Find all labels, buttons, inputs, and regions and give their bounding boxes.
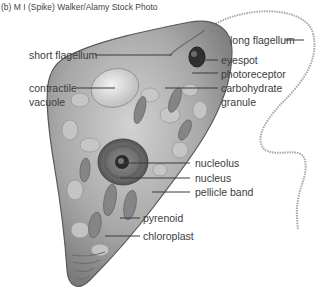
label-chloroplast: chloroplast <box>143 230 194 242</box>
label-photoreceptor: photoreceptor <box>221 68 286 80</box>
label-long-flagellum: long flagellum <box>230 34 295 46</box>
euglena-illustration <box>0 0 319 308</box>
label-eyespot: eyespot <box>221 54 258 66</box>
label-contractile-vacuole-line2: vacuole <box>29 96 65 108</box>
label-carbohydrate-granule-line2: granule <box>221 96 256 108</box>
label-nucleolus: nucleolus <box>195 157 239 169</box>
label-pellicle-band: pellicle band <box>195 186 253 198</box>
label-nucleus: nucleus <box>195 172 231 184</box>
label-contractile-vacuole-line1: contractile <box>29 82 77 94</box>
label-pyrenoid: pyrenoid <box>143 212 183 224</box>
label-short-flagellum: short flagellum <box>29 49 97 61</box>
label-carbohydrate-granule-line1: carbohydrate <box>221 82 282 94</box>
eyespot <box>189 47 205 67</box>
